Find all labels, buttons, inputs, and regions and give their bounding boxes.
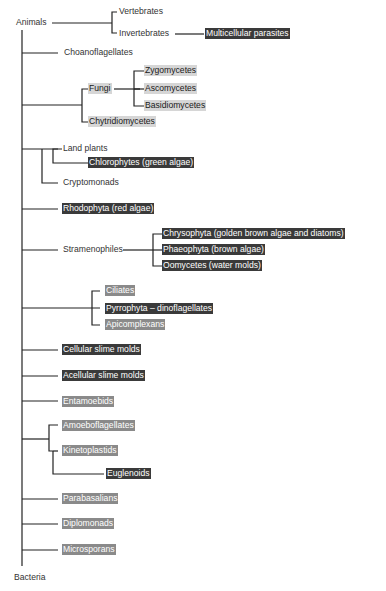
node-ciliates: Ciliates xyxy=(105,285,135,296)
node-oomycetes: Oomycetes (water molds) xyxy=(162,260,262,271)
node-stramenophiles: Stramenophiles xyxy=(62,244,124,255)
node-ascomycetes: Ascomycetes xyxy=(144,83,197,94)
node-invertebrates: Invertebrates xyxy=(118,28,170,39)
node-basidiomycetes: Basidiomycetes xyxy=(144,100,206,111)
node-vertebrates: Vertebrates xyxy=(118,6,164,17)
node-cellular-slime-molds: Cellular slime molds xyxy=(62,344,141,355)
node-bacteria: Bacteria xyxy=(13,572,47,583)
node-euglenoids: Euglenoids xyxy=(106,468,151,479)
node-phaeophyta: Phaeophyta (brown algae) xyxy=(162,244,265,255)
node-choanoflagellates: Choanoflagellates xyxy=(63,47,134,58)
node-entamoebids: Entamoebids xyxy=(62,396,114,407)
node-kinetoplastids: Kinetoplastids xyxy=(62,445,118,456)
node-chytridiomycetes: Chytridiomycetes xyxy=(88,116,156,127)
node-apicomplexans: Apicomplexans xyxy=(105,319,165,330)
node-diplomonads: Diplomonads xyxy=(62,518,114,529)
node-animals: Animals xyxy=(15,17,48,28)
node-chrysophyta: Chrysophyta (golden brown algae and diat… xyxy=(162,228,345,239)
node-microsporans: Microsporans xyxy=(62,544,116,555)
node-rhodophyta: Rhodophyta (red algae) xyxy=(62,203,154,214)
node-chlorophytes: Chlorophytes (green algae) xyxy=(88,157,194,168)
node-land-plants: Land plants xyxy=(62,143,108,154)
branch-plants-crypto xyxy=(42,149,58,183)
node-parabasalians: Parabasalians xyxy=(62,493,118,504)
node-zygomycetes: Zygomycetes xyxy=(144,65,197,76)
node-amoeboflagellates: Amoeboflagellates xyxy=(62,420,135,431)
branch-amoebofl xyxy=(49,425,58,451)
node-pyrrophyta: Pyrrophyta – dinoflagellates xyxy=(105,303,213,314)
node-multicellular-parasites: Multicellular parasites xyxy=(205,28,290,39)
node-cryptomonads: Cryptomonads xyxy=(62,177,120,188)
node-acellular-slime-molds: Acellular slime molds xyxy=(62,370,145,381)
node-fungi: Fungi xyxy=(88,83,112,94)
branch-vert-invert xyxy=(112,12,117,33)
